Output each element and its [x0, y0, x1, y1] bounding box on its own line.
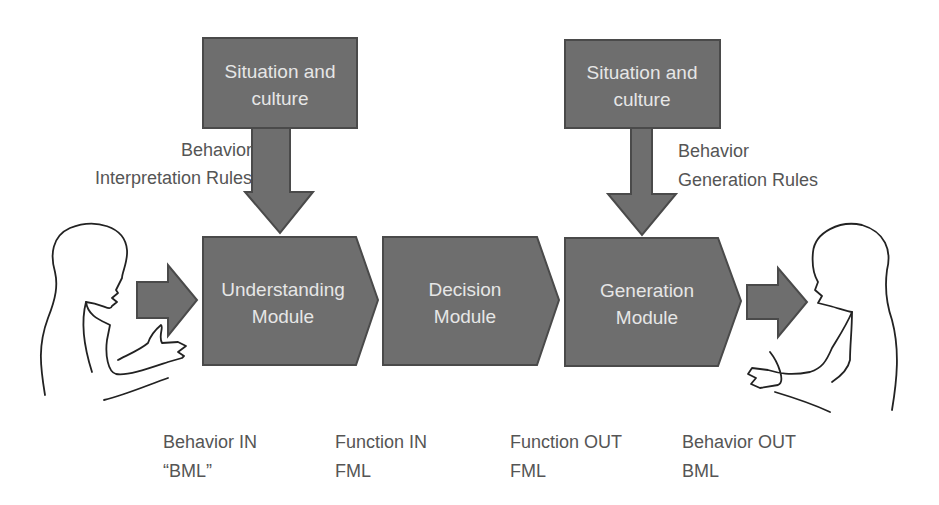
- context-box-1-line2: culture: [251, 88, 308, 109]
- context-box-interpretation: Situation and culture: [203, 38, 357, 128]
- decision-module-line1: Decision: [429, 279, 502, 300]
- rule-label-1-line2: Interpretation Rules: [95, 168, 252, 188]
- rule-label-1-line1: Behavior: [181, 140, 252, 160]
- agent-architecture-diagram: Situation and culture Situation and cult…: [0, 0, 939, 505]
- io-label-behavior-out-line2: BML: [682, 461, 719, 481]
- understanding-module-line2: Module: [252, 306, 314, 327]
- down-arrow-generation-icon: [608, 128, 676, 235]
- decision-module: Decision Module: [383, 237, 559, 365]
- context-box-generation: Situation and culture: [565, 40, 720, 128]
- down-arrow-interpretation-icon: [245, 128, 313, 233]
- context-box-2-line2: culture: [613, 89, 670, 110]
- understanding-module: Understanding Module: [203, 237, 378, 365]
- context-box-2-line1: Situation and: [587, 62, 698, 83]
- input-arrow-icon: [137, 265, 197, 336]
- io-label-behavior-in-line1: Behavior IN: [163, 432, 257, 452]
- io-label-behavior-out-line1: Behavior OUT: [682, 432, 796, 452]
- situation-culture-box-1: [203, 38, 357, 128]
- generation-module: Generation Module: [565, 238, 741, 366]
- decision-module-line2: Module: [434, 306, 496, 327]
- situation-culture-box-2: [565, 40, 720, 128]
- rule-label-2-line1: Behavior: [678, 141, 749, 161]
- understanding-module-line1: Understanding: [221, 279, 345, 300]
- io-label-behavior-in-line2: “BML”: [163, 461, 212, 481]
- io-label-function-in-line1: Function IN: [335, 432, 427, 452]
- io-label-function-in-line2: FML: [335, 461, 371, 481]
- io-label-function-out-line1: Function OUT: [510, 432, 622, 452]
- generation-module-line1: Generation: [600, 280, 694, 301]
- io-label-function-out-line2: FML: [510, 461, 546, 481]
- output-arrow-icon: [747, 268, 807, 337]
- rule-label-2-line2: Generation Rules: [678, 170, 818, 190]
- context-box-1-line1: Situation and: [225, 61, 336, 82]
- generation-module-line2: Module: [616, 307, 678, 328]
